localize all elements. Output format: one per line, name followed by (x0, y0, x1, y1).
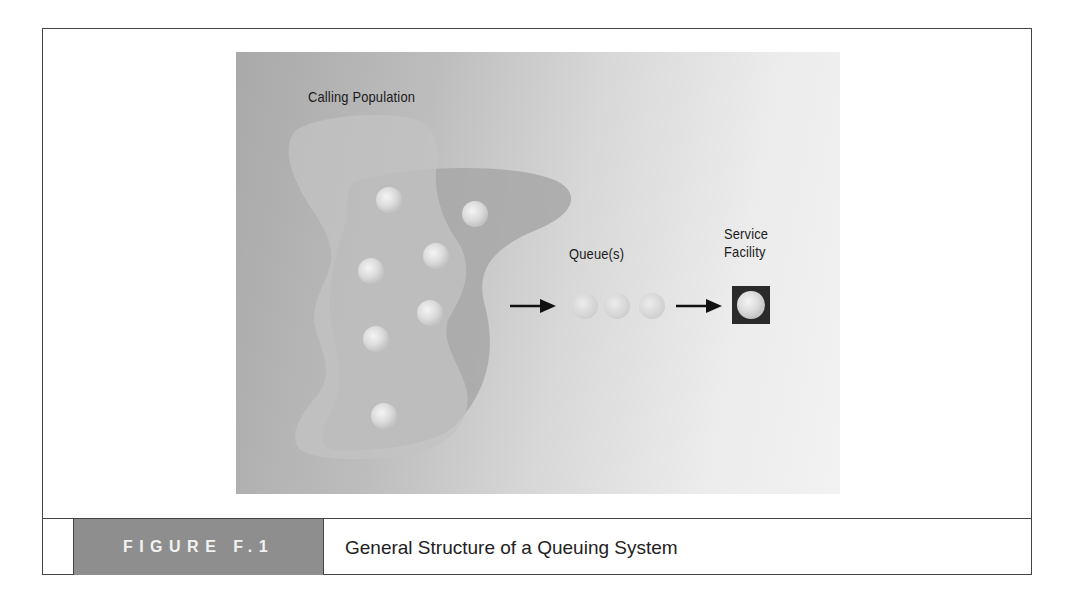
diagram-graphics (236, 52, 840, 494)
figure-caption: General Structure of a Queuing System (345, 537, 678, 559)
customer-icon (423, 243, 449, 269)
figure-number: FIGURE F.1 (123, 538, 274, 556)
calling-population-label: Calling Population (308, 88, 415, 105)
customer-icon (358, 258, 384, 284)
queue-label: Queue(s) (569, 245, 624, 262)
figure-number-box: FIGURE F.1 (74, 519, 324, 575)
caption-spacer (42, 519, 74, 575)
facility-label: Facility (724, 243, 766, 260)
queuing-diagram: Calling Population Queue(s) Service Faci… (236, 52, 840, 494)
queue-unit-icon (572, 293, 598, 319)
arrow-icon (510, 299, 556, 313)
arrow-icon (676, 299, 722, 313)
customer-icon (462, 201, 488, 227)
queue-unit-icon (604, 293, 630, 319)
customer-icon (371, 403, 397, 429)
service-facility-icon (732, 286, 770, 324)
service-label: Service (724, 225, 768, 242)
customer-icon (376, 187, 402, 213)
customer-icon (363, 326, 389, 352)
queue-unit-icon (639, 293, 665, 319)
customer-icon (417, 300, 443, 326)
